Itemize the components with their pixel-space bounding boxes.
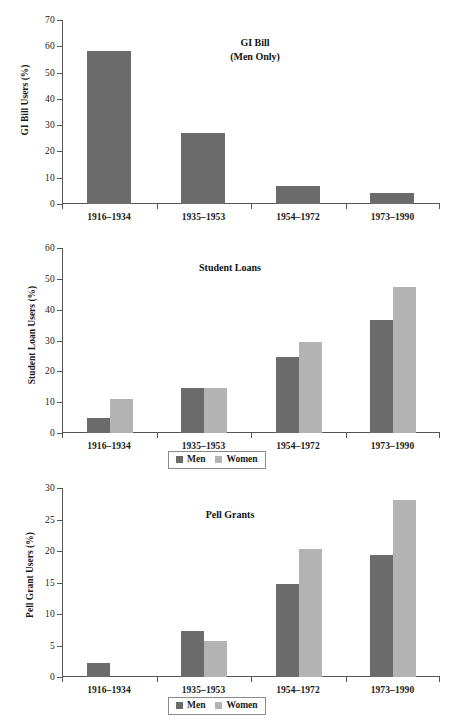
legend-label-men: Men xyxy=(187,700,205,711)
y-tick-label: 10 xyxy=(45,397,55,407)
legend-student-loans: Men Women xyxy=(168,451,266,469)
y-tick-label: 10 xyxy=(45,173,55,183)
y-tick xyxy=(57,20,62,21)
y-tick xyxy=(57,488,62,489)
y-tick-label: 50 xyxy=(45,68,55,78)
y-tick-label: 20 xyxy=(45,366,55,376)
x-tick xyxy=(439,433,440,438)
bar-pell-women-1935-1953 xyxy=(204,641,227,678)
bar-pell-women-1973-1990 xyxy=(393,500,416,677)
x-tick xyxy=(346,433,347,438)
y-tick xyxy=(57,73,62,74)
legend-swatch-men-icon xyxy=(176,702,183,709)
y-tick-label: 30 xyxy=(45,483,55,493)
chart-student-loans: Student Loan Users (%) Student Loans 60 … xyxy=(0,235,453,475)
y-tick-label: 0 xyxy=(50,672,55,682)
y-tick xyxy=(57,583,62,584)
y-tick-label: 5 xyxy=(50,641,55,651)
chart-pell-grants: Pell Grant Users (%) Pell Grants 30 25 2… xyxy=(0,475,453,727)
x-category-label: 1916–1934 xyxy=(87,685,131,695)
x-category-label: 1916–1934 xyxy=(87,441,131,451)
x-category-label: 1973–1990 xyxy=(371,441,415,451)
bar-loans-women-1935-1953 xyxy=(204,388,227,433)
y-axis-line xyxy=(62,488,63,677)
plot-area-pell-grants: 30 25 20 15 10 5 0 1916–1934 1935–1953 1… xyxy=(62,488,440,677)
y-tick xyxy=(57,614,62,615)
x-tick xyxy=(62,433,63,438)
bar-loans-women-1973-1990 xyxy=(393,287,416,434)
x-category-label: 1935–1953 xyxy=(182,685,226,695)
y-tick xyxy=(57,178,62,179)
y-tick xyxy=(57,402,62,403)
bar-loans-women-1954-1972 xyxy=(299,342,322,433)
y-tick xyxy=(57,341,62,342)
legend-label-women: Women xyxy=(226,700,257,711)
legend-swatch-men-icon xyxy=(176,456,183,463)
x-category-label: 1935–1953 xyxy=(182,441,226,451)
bar-loans-men-1973-1990 xyxy=(370,320,393,433)
y-axis-title-pell-grants: Pell Grant Users (%) xyxy=(25,505,35,645)
y-tick-label: 60 xyxy=(45,41,55,51)
y-tick xyxy=(57,520,62,521)
x-tick xyxy=(62,677,63,682)
legend-entry-women: Women xyxy=(215,454,257,465)
y-tick-label: 0 xyxy=(50,428,55,438)
y-axis-line xyxy=(62,20,63,204)
legend-swatch-women-icon xyxy=(215,456,222,463)
bar-pell-men-1935-1953 xyxy=(181,631,204,677)
y-tick xyxy=(57,125,62,126)
plot-area-gi-bill: 70 60 50 40 30 20 10 0 1916–1934 1935–19… xyxy=(62,20,440,204)
legend-pell-grants: Men Women xyxy=(168,697,266,715)
y-tick-label: 0 xyxy=(50,199,55,209)
y-tick-label: 10 xyxy=(45,609,55,619)
x-category-label: 1954–1972 xyxy=(276,441,320,451)
x-category-label: 1973–1990 xyxy=(371,212,415,222)
x-category-label: 1954–1972 xyxy=(276,685,320,695)
legend-label-women: Women xyxy=(226,454,257,465)
y-tick-label: 30 xyxy=(45,120,55,130)
y-axis-title-gi-bill: GI Bill Users (%) xyxy=(20,40,30,160)
x-category-label: 1954–1972 xyxy=(276,212,320,222)
bar-loans-women-1916-1934 xyxy=(110,399,133,433)
y-tick xyxy=(57,248,62,249)
y-tick xyxy=(57,310,62,311)
y-tick xyxy=(57,46,62,47)
bar-loans-men-1935-1953 xyxy=(181,388,204,433)
x-tick xyxy=(439,677,440,682)
x-tick xyxy=(157,677,158,682)
bar-pell-men-1954-1972 xyxy=(276,584,299,677)
y-tick xyxy=(57,551,62,552)
y-tick xyxy=(57,99,62,100)
bar-pell-women-1954-1972 xyxy=(299,549,322,678)
y-tick-label: 50 xyxy=(45,274,55,284)
bar-gi-bill-1916-1934 xyxy=(87,51,131,204)
y-tick xyxy=(57,646,62,647)
x-tick xyxy=(346,204,347,209)
bar-pell-men-1973-1990 xyxy=(370,555,393,677)
bar-loans-men-1954-1972 xyxy=(276,357,299,433)
chart-gi-bill: GI Bill Users (%) GI Bill (Men Only) 70 … xyxy=(0,0,453,235)
y-tick-label: 15 xyxy=(45,578,55,588)
y-tick-label: 30 xyxy=(45,336,55,346)
bar-gi-bill-1954-1972 xyxy=(276,186,320,204)
x-category-label: 1916–1934 xyxy=(87,212,131,222)
x-tick xyxy=(251,204,252,209)
y-axis-title-student-loans: Student Loan Users (%) xyxy=(27,260,37,410)
plot-area-student-loans: 60 50 40 30 20 10 0 1916–1934 1935–1953 … xyxy=(62,248,440,433)
legend-swatch-women-icon xyxy=(215,702,222,709)
x-tick xyxy=(346,677,347,682)
legend-entry-men: Men xyxy=(176,700,205,711)
x-tick xyxy=(157,433,158,438)
x-tick xyxy=(157,204,158,209)
y-tick-label: 70 xyxy=(45,15,55,25)
y-tick xyxy=(57,151,62,152)
y-tick-label: 60 xyxy=(45,243,55,253)
y-tick-label: 40 xyxy=(45,94,55,104)
y-axis-line xyxy=(62,248,63,433)
x-tick xyxy=(251,677,252,682)
x-category-label: 1973–1990 xyxy=(371,685,415,695)
bar-pell-men-1916-1934 xyxy=(87,663,110,678)
x-tick xyxy=(62,204,63,209)
y-tick-label: 40 xyxy=(45,305,55,315)
y-tick-label: 20 xyxy=(45,546,55,556)
